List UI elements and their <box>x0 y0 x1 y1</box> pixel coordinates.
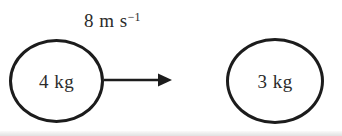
collision-diagram: 8 m s−1 4 kg 3 kg <box>0 0 342 136</box>
velocity-value: 8 m s <box>84 10 128 31</box>
page-scan-edge <box>0 131 342 136</box>
right-mass-circle: 3 kg <box>226 38 324 124</box>
velocity-label: 8 m s−1 <box>84 11 140 30</box>
right-mass-label: 3 kg <box>257 72 292 91</box>
velocity-exponent: −1 <box>128 10 141 24</box>
velocity-arrow-icon <box>100 66 178 94</box>
left-mass-label: 4 kg <box>39 72 74 91</box>
left-mass-circle: 4 kg <box>9 39 104 123</box>
